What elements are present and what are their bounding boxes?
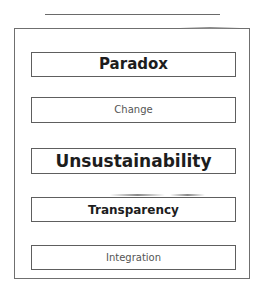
smudge-artifact [180, 27, 240, 29]
item-box-transparency: Transparency [31, 197, 236, 222]
item-box-unsustainability: Unsustainability [31, 148, 236, 174]
item-box-integration: Integration [31, 245, 236, 270]
smudge-artifact [170, 194, 205, 196]
item-label: Unsustainability [55, 153, 211, 170]
item-label: Change [114, 105, 152, 115]
item-box-change: Change [31, 97, 236, 123]
smudge-artifact [110, 194, 165, 196]
item-label: Transparency [88, 204, 179, 216]
header-divider-line [45, 14, 220, 15]
item-label: Integration [106, 253, 161, 263]
item-box-paradox: Paradox [31, 52, 236, 77]
item-label: Paradox [99, 57, 168, 72]
